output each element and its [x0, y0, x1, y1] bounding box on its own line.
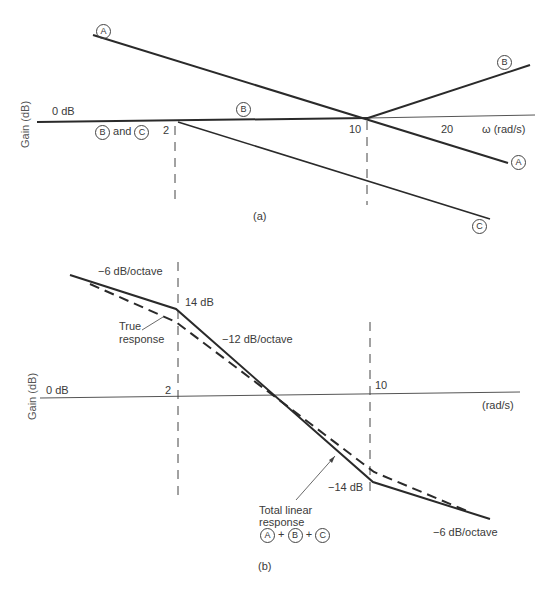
- total-response-pointer: [296, 456, 335, 500]
- curve-label-b-mid: B: [236, 102, 251, 117]
- tick-2-b: 2: [165, 385, 171, 396]
- y-axis-label-a: Gain (dB): [19, 101, 31, 148]
- axis-b: [40, 392, 520, 398]
- figure-b-lines: [40, 262, 520, 519]
- slope-high-label: −6 dB/octave: [433, 527, 498, 538]
- axis-a-extension: [368, 115, 535, 118]
- gain-minus-14-label: −14 dB: [328, 482, 363, 493]
- slope-mid-label: −12 dB/octave: [222, 334, 293, 345]
- bode-diagram: [0, 0, 546, 590]
- b-and-c-label: B and C: [95, 125, 149, 140]
- total-response-label-1: Total linear: [259, 505, 312, 516]
- curve-label-a-top: A: [96, 24, 111, 39]
- line-b: [368, 65, 530, 118]
- line-c: [178, 122, 490, 219]
- y-axis-label-b: Gain (dB): [26, 373, 38, 420]
- sum-label: A + B + C: [260, 528, 330, 543]
- zero-db-label-a: 0 dB: [52, 106, 75, 117]
- axis-a-flat: [37, 118, 368, 122]
- tick-10-a: 10: [349, 124, 361, 135]
- total-response-label-2: response: [259, 517, 304, 528]
- curve-label-b-right: B: [497, 55, 512, 70]
- x-axis-label-a: ω (rad/s): [482, 124, 525, 135]
- true-response-pointer: [142, 317, 163, 330]
- tick-2-a: 2: [163, 125, 169, 136]
- true-response-label-2: response: [119, 334, 164, 345]
- slope-low-label: −6 dB/octave: [98, 266, 163, 277]
- line-a: [93, 35, 508, 163]
- tick-10-b: 10: [375, 380, 387, 391]
- curve-label-a-right: A: [511, 155, 526, 170]
- tick-20-a: 20: [441, 124, 453, 135]
- true-response: [90, 284, 467, 511]
- curve-label-c-right: C: [472, 219, 487, 234]
- true-response-label-1: True: [119, 321, 141, 332]
- caption-b: (b): [258, 561, 271, 572]
- gain-14-label: 14 dB: [185, 297, 214, 308]
- caption-a: (a): [253, 211, 266, 222]
- zero-db-label-b: 0 dB: [46, 385, 69, 396]
- x-axis-label-b: (rad/s): [482, 400, 514, 411]
